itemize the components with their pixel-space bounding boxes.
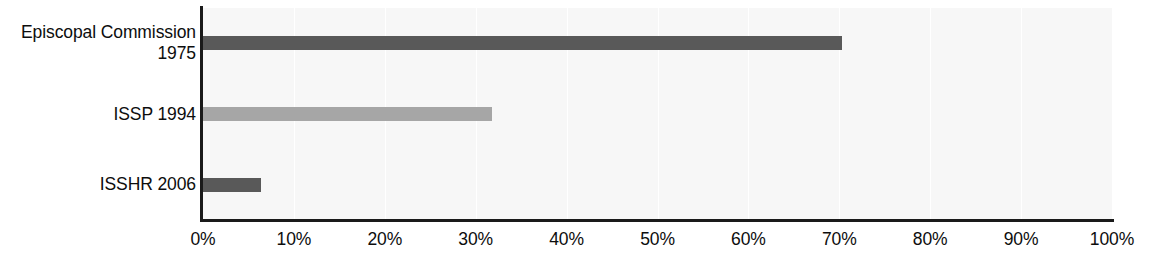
gridline-100% — [1112, 8, 1113, 220]
x-axis-line — [200, 219, 1114, 222]
y-axis-category-labels: Episcopal Commission 1975 ISSP 1994 ISSH… — [0, 8, 196, 220]
bar-issp-1994 — [203, 107, 492, 121]
x-tick-60%: 60% — [731, 228, 766, 250]
x-tick-30%: 30% — [458, 228, 493, 250]
y-axis-line — [200, 6, 203, 222]
bar-isshr-2006 — [203, 178, 261, 192]
bar-chart: Episcopal Commission 1975 ISSP 1994 ISSH… — [0, 0, 1158, 277]
y-axis-label-1: ISSP 1994 — [0, 104, 196, 125]
x-tick-100%: 100% — [1090, 228, 1134, 250]
x-tick-10%: 10% — [277, 228, 312, 250]
y-axis-label-2: ISSHR 2006 — [0, 174, 196, 195]
x-tick-40%: 40% — [549, 228, 584, 250]
plot-area — [203, 8, 1112, 220]
x-tick-90%: 90% — [1004, 228, 1039, 250]
x-tick-20%: 20% — [367, 228, 402, 250]
x-tick-0%: 0% — [190, 228, 215, 250]
x-tick-80%: 80% — [913, 228, 948, 250]
y-axis-label-0: Episcopal Commission 1975 — [0, 22, 196, 64]
x-axis-tick-labels: 0%10%20%30%40%50%60%70%80%90%100% — [203, 228, 1112, 258]
bar-series — [203, 8, 1112, 220]
x-tick-50%: 50% — [640, 228, 675, 250]
bar-episcopal-commission-1975 — [203, 36, 842, 50]
x-tick-70%: 70% — [822, 228, 857, 250]
